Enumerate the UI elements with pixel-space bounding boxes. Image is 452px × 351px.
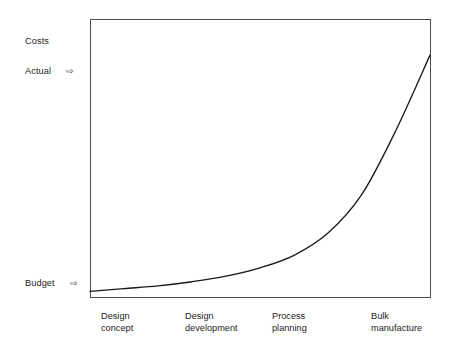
x-axis-category-0: Design concept: [101, 311, 133, 335]
arrow-right-icon-budget: ⇨: [70, 278, 78, 289]
x-axis-category-0-line1: Design: [101, 311, 133, 323]
x-axis-category-3-line2: manufacture: [371, 323, 422, 335]
axis-label-costs: Costs: [25, 36, 49, 48]
x-axis-category-1: Design development: [185, 311, 238, 335]
x-axis-category-2: Process planning: [272, 311, 307, 335]
plot-frame: [91, 20, 431, 298]
x-axis-category-1-line2: development: [185, 323, 238, 335]
chart-canvas: [0, 0, 452, 351]
x-axis-category-2-line1: Process: [272, 311, 307, 323]
x-axis-category-0-line2: concept: [101, 323, 133, 335]
axis-label-actual: Actual: [25, 66, 51, 78]
axis-label-budget: Budget: [25, 278, 55, 290]
arrow-right-icon-actual: ⇨: [66, 66, 74, 77]
x-axis-category-3: Bulk manufacture: [371, 311, 422, 335]
x-axis-category-1-line1: Design: [185, 311, 238, 323]
x-axis-category-2-line2: planning: [272, 323, 307, 335]
cost-curve-chart: Costs Actual ⇨ Budget ⇨ Design concept D…: [0, 0, 452, 351]
x-axis-category-3-line1: Bulk: [371, 311, 422, 323]
